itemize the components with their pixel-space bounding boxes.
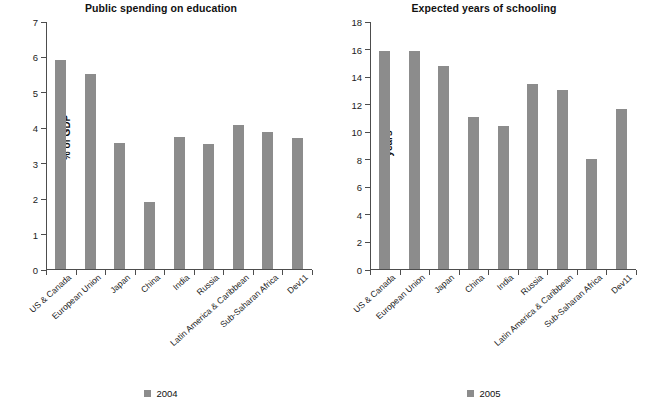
y-axis-tick-right bbox=[365, 49, 370, 50]
y-axis-tick-right bbox=[365, 104, 370, 105]
x-axis-tick-label-left: China bbox=[137, 270, 162, 295]
y-axis-tick-label-right: 12 bbox=[351, 99, 362, 110]
y-axis-line-left bbox=[46, 22, 47, 270]
y-axis-tick-left bbox=[41, 92, 46, 93]
x-axis-tick-right bbox=[400, 270, 401, 275]
y-axis-line-right bbox=[370, 22, 371, 270]
y-axis-tick-label-right: 0 bbox=[357, 265, 362, 276]
x-axis-tick-left bbox=[282, 270, 283, 275]
x-axis-tick-label-right: India bbox=[493, 270, 516, 292]
y-axis-tick-label-right: 10 bbox=[351, 127, 362, 138]
bar bbox=[174, 137, 185, 269]
y-axis-tick-label-left: 4 bbox=[33, 123, 38, 134]
bar bbox=[203, 144, 214, 269]
x-axis-tick-right bbox=[370, 270, 371, 275]
x-axis-tick-right bbox=[606, 270, 607, 275]
x-axis-tick-right bbox=[488, 270, 489, 275]
y-axis-tick-left bbox=[41, 163, 46, 164]
y-axis-tick-label-right: 8 bbox=[357, 154, 362, 165]
legend-swatch-icon-right bbox=[467, 390, 474, 397]
y-axis-tick-left bbox=[41, 128, 46, 129]
bar bbox=[85, 74, 96, 269]
x-axis-tick-right bbox=[547, 270, 548, 275]
y-axis-tick-label-left: 6 bbox=[33, 52, 38, 63]
x-axis-tick-right bbox=[518, 270, 519, 275]
legend-left: 2004 bbox=[0, 388, 322, 399]
legend-label-right: 2005 bbox=[479, 388, 500, 399]
y-axis-tick-label-left: 1 bbox=[33, 229, 38, 240]
x-axis-tick-left bbox=[76, 270, 77, 275]
chart-title-left: Public spending on education bbox=[0, 2, 322, 14]
bar bbox=[409, 51, 420, 269]
panel-public-spending-on-education: Public spending on education % of GDP 01… bbox=[0, 0, 322, 411]
bar bbox=[379, 51, 390, 269]
y-axis-tick-right bbox=[365, 214, 370, 215]
x-axis-tick-left bbox=[105, 270, 106, 275]
bar bbox=[586, 159, 597, 269]
bar bbox=[114, 143, 125, 269]
y-axis-tick-right bbox=[365, 77, 370, 78]
y-axis-tick-right bbox=[365, 132, 370, 133]
x-axis-tick-right bbox=[577, 270, 578, 275]
x-axis-tick-left bbox=[194, 270, 195, 275]
y-axis-tick-label-right: 14 bbox=[351, 72, 362, 83]
bar bbox=[498, 126, 509, 269]
bar bbox=[557, 90, 568, 269]
y-axis-tick-label-left: 5 bbox=[33, 87, 38, 98]
y-axis-tick-label-left: 0 bbox=[33, 265, 38, 276]
panel-expected-years-of-schooling: Expected years of schooling years 024681… bbox=[323, 0, 645, 411]
x-axis-tick-right bbox=[636, 270, 637, 275]
x-axis-tick-right bbox=[459, 270, 460, 275]
bar bbox=[438, 66, 449, 269]
legend-swatch-icon-left bbox=[144, 390, 151, 397]
x-axis-tick-label-right: Dev11 bbox=[607, 270, 634, 296]
legend-label-left: 2004 bbox=[156, 388, 177, 399]
bar bbox=[144, 202, 155, 269]
x-axis-tick-left bbox=[253, 270, 254, 275]
x-axis-tick-left bbox=[46, 270, 47, 275]
y-axis-tick-label-right: 16 bbox=[351, 44, 362, 55]
y-axis-tick-right bbox=[365, 22, 370, 23]
y-axis-tick-right bbox=[365, 159, 370, 160]
bar bbox=[292, 138, 303, 269]
y-axis-tick-left bbox=[41, 57, 46, 58]
y-axis-tick-label-right: 2 bbox=[357, 237, 362, 248]
y-axis-tick-label-right: 18 bbox=[351, 17, 362, 28]
plot-area-right: years 024681012141618US & CanadaEuropean… bbox=[370, 22, 636, 270]
x-axis-tick-label-left: Dev11 bbox=[283, 270, 310, 296]
bar bbox=[527, 84, 538, 269]
x-axis-tick-label-left: India bbox=[169, 270, 192, 292]
y-axis-tick-label-left: 7 bbox=[33, 17, 38, 28]
bar bbox=[262, 132, 273, 269]
x-axis-tick-left bbox=[312, 270, 313, 275]
chart-title-right: Expected years of schooling bbox=[323, 2, 645, 14]
legend-right: 2005 bbox=[323, 388, 645, 399]
y-axis-tick-left bbox=[41, 22, 46, 23]
y-axis-tick-left bbox=[41, 234, 46, 235]
x-axis-tick-left bbox=[135, 270, 136, 275]
figure-canvas: Public spending on education % of GDP 01… bbox=[0, 0, 645, 411]
y-axis-tick-label-right: 4 bbox=[357, 209, 362, 220]
x-axis-tick-label-right: China bbox=[461, 270, 486, 295]
y-axis-tick-right bbox=[365, 187, 370, 188]
x-axis-tick-label-left: Japan bbox=[106, 270, 132, 295]
bar bbox=[233, 125, 244, 269]
x-axis-tick-left bbox=[164, 270, 165, 275]
y-axis-tick-label-left: 2 bbox=[33, 194, 38, 205]
plot-area-left: % of GDP 01234567US & CanadaEuropean Uni… bbox=[46, 22, 312, 270]
y-axis-tick-right bbox=[365, 242, 370, 243]
bar bbox=[55, 60, 66, 269]
x-axis-tick-left bbox=[223, 270, 224, 275]
y-axis-tick-left bbox=[41, 199, 46, 200]
y-axis-tick-label-left: 3 bbox=[33, 158, 38, 169]
x-axis-tick-label-right: Japan bbox=[430, 270, 456, 295]
bar bbox=[616, 109, 627, 269]
bar bbox=[468, 117, 479, 269]
y-axis-tick-label-right: 6 bbox=[357, 182, 362, 193]
x-axis-tick-right bbox=[429, 270, 430, 275]
